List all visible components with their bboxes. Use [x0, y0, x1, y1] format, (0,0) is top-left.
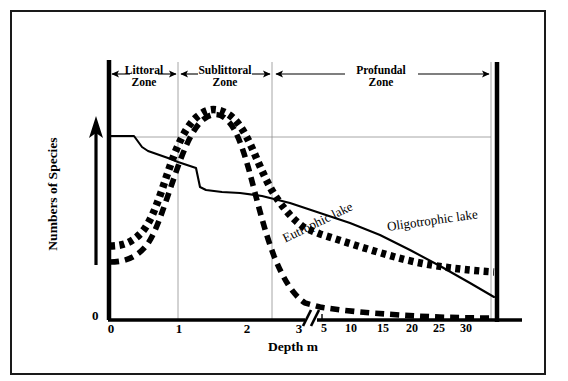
zone-sublittoral-line1: Sublittoral — [190, 64, 260, 76]
x-tick-2: 2 — [240, 322, 254, 336]
y-axis-title: Numbers of Species — [45, 124, 61, 264]
x-axis-title: Depth m — [268, 340, 318, 354]
zone-littoral-line1: Littoral — [120, 64, 168, 76]
zone-profundal-line2: Zone — [348, 76, 414, 88]
x-tick-20: 20 — [402, 322, 422, 335]
x-tick-25: 25 — [429, 322, 449, 335]
axes-lines — [108, 60, 522, 326]
x-tick-5: 5 — [317, 322, 331, 335]
zone-littoral-line2: Zone — [120, 76, 168, 88]
x-tick-1: 1 — [172, 322, 186, 336]
x-tick-0: 0 — [104, 322, 118, 336]
zone-label-littoral: Littoral Zone — [120, 64, 168, 88]
x-tick-3: 3 — [292, 322, 306, 336]
chart-plot — [0, 0, 568, 381]
zone-sublittoral-line2: Zone — [190, 76, 260, 88]
y-axis-arrow — [89, 116, 103, 265]
x-tick-30: 30 — [456, 322, 476, 335]
y-axis-zero-label: 0 — [92, 309, 99, 323]
zone-profundal-line1: Profundal — [348, 64, 414, 76]
zone-label-sublittoral: Sublittoral Zone — [190, 64, 260, 88]
zone-label-profundal: Profundal Zone — [348, 64, 414, 88]
curve-oligotrophic-lake — [110, 110, 494, 272]
x-tick-15: 15 — [373, 322, 393, 335]
gridlines — [108, 62, 491, 320]
x-tick-10: 10 — [341, 322, 361, 335]
figure-container: Littoral Zone Sublittoral Zone Profundal… — [0, 0, 568, 381]
